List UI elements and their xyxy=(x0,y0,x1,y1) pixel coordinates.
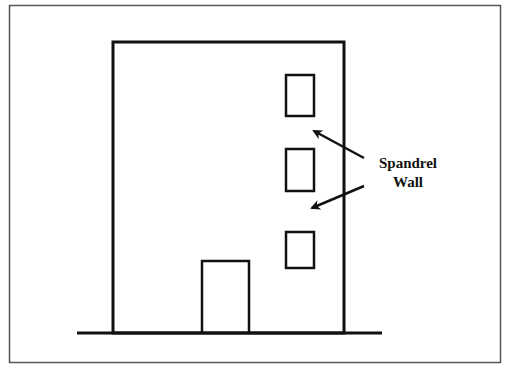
figure-frame xyxy=(10,6,501,363)
label-spandrel: Spandrel xyxy=(379,155,437,171)
spandrel-wall-diagram: Spandrel Wall xyxy=(0,0,509,371)
label-wall: Wall xyxy=(393,174,423,190)
door xyxy=(202,261,249,333)
window-upper xyxy=(286,75,314,116)
window-lower xyxy=(286,232,314,268)
window-middle xyxy=(286,149,314,191)
building-outline xyxy=(113,42,344,333)
arrow-upper xyxy=(314,131,364,158)
arrow-lower xyxy=(312,186,364,208)
